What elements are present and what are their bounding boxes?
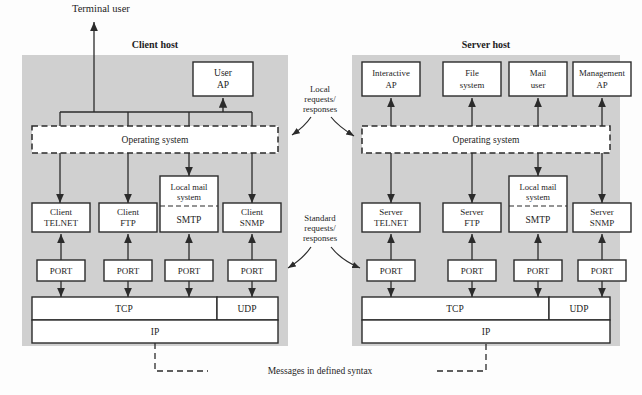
server-udp-label: UDP [569, 304, 588, 314]
server-protocol-3-line1: Server [590, 207, 614, 217]
local-requests-line3: responses [303, 104, 338, 114]
messages-label: Messages in defined syntax [268, 366, 373, 376]
diagram-canvas: Terminal user Client host Server host Us… [0, 0, 642, 395]
server-port-1-label: PORT [461, 266, 484, 276]
client-protocol-3-line1: Client [241, 207, 263, 217]
server-protocol-2-line1: Local mail [520, 182, 558, 192]
server-app-3-line1: Management [579, 68, 625, 78]
client-protocol-3-line2: SNMP [240, 218, 265, 228]
standard-requests-line3: responses [303, 233, 338, 243]
server-port-0-label: PORT [380, 266, 403, 276]
server-port-3-label: PORT [591, 266, 614, 276]
server-protocol-1-line1: Server [460, 207, 484, 217]
server-app-2-line2: user [531, 80, 546, 90]
client-port-2-label: PORT [178, 266, 201, 276]
client-protocol-2-line1: Local mail [171, 182, 209, 192]
client-protocol-2-line2: system [177, 192, 201, 202]
standard-requests-arrow-left [288, 247, 311, 268]
server-ip-label: IP [482, 327, 490, 337]
terminal-user-label: Terminal user [72, 3, 130, 14]
standard-requests-line2: requests/ [304, 223, 336, 233]
client-protocol-0-line2: TELNET [44, 218, 78, 228]
server-host-title: Server host [462, 39, 511, 50]
client-tcp-label: TCP [115, 304, 132, 314]
client-protocol-1-line2: FTP [120, 218, 136, 228]
server-protocol-1-line2: FTP [464, 218, 480, 228]
local-requests-line1: Local [310, 84, 331, 94]
client-ip-label: IP [151, 327, 159, 337]
client-app-0-line2: AP [217, 80, 229, 90]
server-app-1-line1: File [465, 68, 479, 78]
server-app-2-line1: Mail [530, 68, 547, 78]
client-port-1-label: PORT [117, 266, 140, 276]
client-udp-label: UDP [237, 304, 256, 314]
local-requests-arrow-left [292, 117, 311, 135]
local-requests-line2: requests/ [304, 94, 336, 104]
standard-requests-line1: Standard [304, 213, 336, 223]
server-port-2-label: PORT [527, 266, 550, 276]
client-protocol-0-line1: Client [50, 207, 72, 217]
server-protocol-0-line1: Server [379, 207, 403, 217]
server-protocol-2-line3: SMTP [526, 215, 551, 225]
server-protocol-2-line2: system [526, 192, 550, 202]
client-os-label: Operating system [122, 135, 189, 145]
server-app-1-line2: system [460, 80, 485, 90]
server-protocol-0-line2: TELNET [374, 218, 408, 228]
client-protocol-2-line3: SMTP [177, 215, 202, 225]
server-app-3-line2: AP [596, 80, 607, 90]
server-app-0-line1: Interactive [372, 68, 410, 78]
local-requests-arrow-right [331, 117, 354, 136]
client-port-3-label: PORT [241, 266, 264, 276]
server-os-label: Operating system [453, 135, 520, 145]
client-app-0-line1: User [214, 68, 233, 78]
client-protocol-1-line1: Client [117, 207, 139, 217]
tcpip-architecture-svg: Terminal user Client host Server host Us… [0, 0, 642, 395]
server-tcp-label: TCP [446, 304, 463, 314]
server-app-0-line2: AP [385, 80, 396, 90]
client-port-0-label: PORT [50, 266, 73, 276]
server-protocol-3-line2: SNMP [590, 218, 615, 228]
client-host-title: Client host [132, 39, 179, 50]
